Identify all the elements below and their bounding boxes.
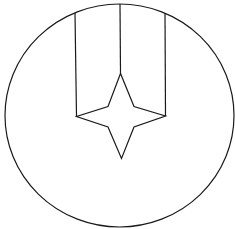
right-vertical-line [165,13,166,116]
center-vertical-line [120,4,121,74]
four-pointed-star [77,74,166,159]
outer-circle [5,4,234,227]
left-vertical-line [75,13,77,117]
diagram-canvas [0,0,235,229]
